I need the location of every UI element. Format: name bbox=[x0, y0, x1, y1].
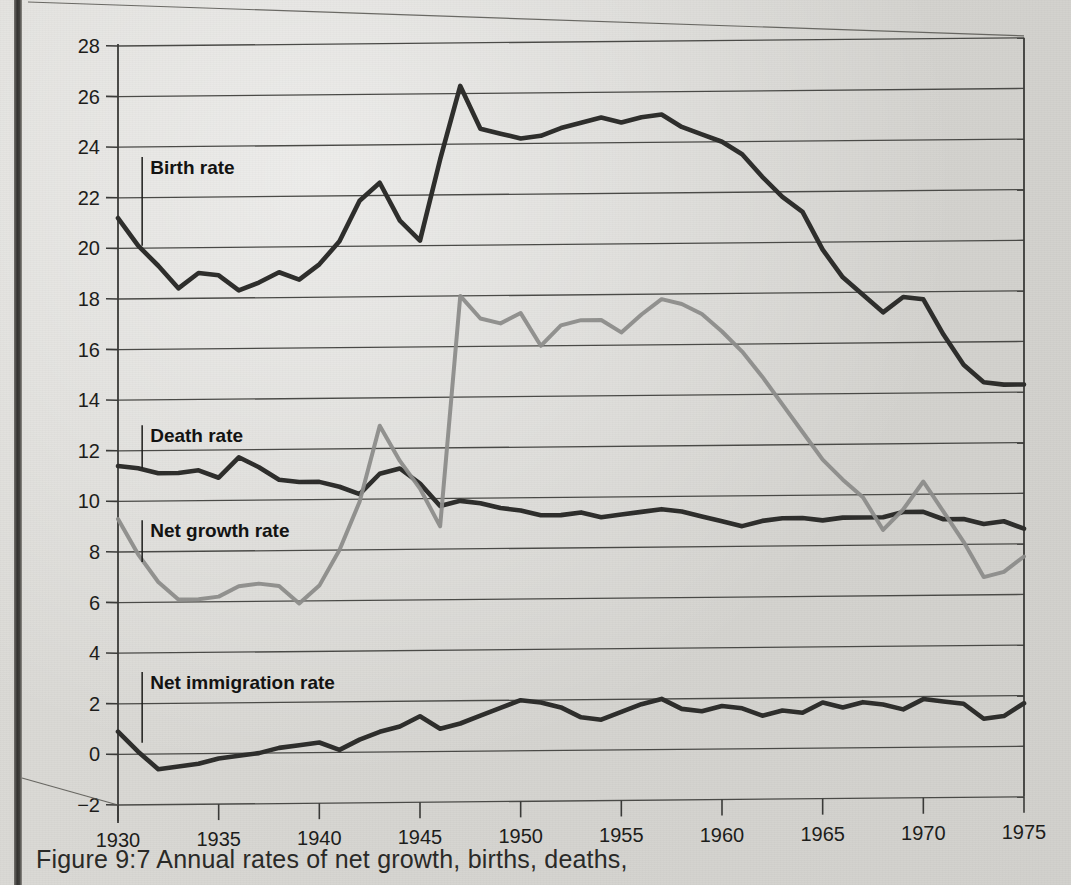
grid-line bbox=[118, 190, 1024, 198]
grid-line bbox=[118, 88, 1024, 96]
grid-line bbox=[118, 594, 1024, 602]
series-line-death-rate bbox=[118, 457, 1024, 528]
x-tick-label: 1960 bbox=[700, 824, 745, 846]
y-tick-label: 12 bbox=[78, 440, 100, 462]
grid-line bbox=[118, 645, 1024, 653]
grid-line bbox=[118, 443, 1024, 451]
grid-line bbox=[118, 240, 1024, 248]
series-label-death: Death rate bbox=[150, 425, 243, 446]
figure-caption: Figure 9:7 Annual rates of net growth, b… bbox=[36, 845, 628, 874]
grid-line bbox=[118, 797, 1024, 805]
page-crease-top bbox=[28, 2, 1024, 36]
series-line-birth-rate bbox=[118, 86, 1024, 385]
y-tick-label: 22 bbox=[78, 187, 100, 209]
y-tick-label: 8 bbox=[89, 541, 100, 563]
y-tick-label: 24 bbox=[78, 136, 100, 158]
y-tick-label: 4 bbox=[89, 642, 100, 664]
series-label-net_growth: Net growth rate bbox=[150, 520, 289, 541]
y-tick-label: 10 bbox=[78, 490, 100, 512]
x-tick-label: 1955 bbox=[599, 824, 644, 846]
series-line-net-immigration-rate bbox=[118, 699, 1024, 769]
y-tick-label: 6 bbox=[89, 592, 100, 614]
y-tick-label: 2 bbox=[89, 693, 100, 715]
grid-line bbox=[118, 392, 1024, 400]
grid-line bbox=[118, 341, 1024, 349]
y-tick-label: 20 bbox=[78, 237, 100, 259]
data-series bbox=[118, 86, 1024, 769]
y-tick-label: 26 bbox=[78, 86, 100, 108]
y-tick-label: 28 bbox=[78, 35, 100, 57]
grid-line bbox=[118, 696, 1024, 704]
y-tick-label: 0 bbox=[89, 743, 100, 765]
grid-line bbox=[118, 38, 1024, 46]
x-tick-label: 1965 bbox=[800, 823, 845, 845]
y-tick-label: 16 bbox=[78, 339, 100, 361]
grid-line bbox=[118, 493, 1024, 501]
y-tick-label: 14 bbox=[78, 389, 100, 411]
series-label-birth: Birth rate bbox=[150, 157, 234, 178]
x-axis-ticks: 1930193519401945195019551960196519701975 bbox=[96, 797, 1047, 851]
page-crease-bottom bbox=[22, 778, 118, 805]
grid-line bbox=[118, 291, 1024, 299]
series-label-net_immigration: Net immigration rate bbox=[150, 672, 335, 693]
x-tick-label: 1970 bbox=[901, 822, 946, 844]
x-tick-label: 1975 bbox=[1002, 821, 1047, 843]
line-chart: −20246810121416182022242628 193019351940… bbox=[0, 0, 1071, 885]
grid-line bbox=[118, 544, 1024, 552]
y-tick-label: 18 bbox=[78, 288, 100, 310]
figure-root: −20246810121416182022242628 193019351940… bbox=[0, 0, 1071, 885]
y-axis-ticks: −20246810121416182022242628 bbox=[77, 35, 118, 816]
grid-line bbox=[118, 139, 1024, 147]
